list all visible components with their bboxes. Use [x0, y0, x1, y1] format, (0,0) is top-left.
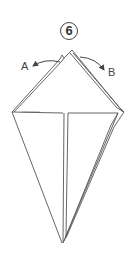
origami-diagram: 6 A B [0, 0, 138, 269]
paper-outline [12, 50, 124, 243]
fold-drawing [0, 0, 138, 269]
